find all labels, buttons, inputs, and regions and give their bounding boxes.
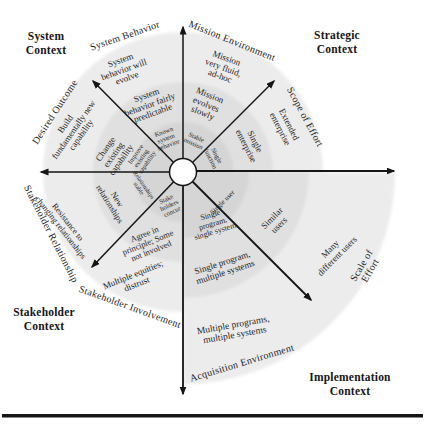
stakeholder-context-label: Stakeholder Context: [13, 306, 75, 333]
bottom-rule: [2, 414, 423, 418]
strategic-context-label: Strategic Context: [314, 29, 360, 56]
profiler-figure: System Context Strategic Context Stakeho…: [0, 0, 425, 426]
system-context-label: System Context: [26, 30, 66, 57]
implementation-context-label: Implementation Context: [309, 371, 390, 398]
center-hub: [170, 159, 197, 186]
